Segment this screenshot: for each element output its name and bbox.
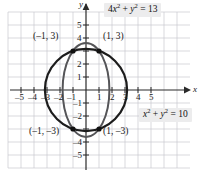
ellipse-equation-annotation: 4x2 + y2 = 13 <box>104 3 161 17</box>
point-neg1-3 <box>70 48 75 53</box>
x-tick-label-3: 3 <box>123 93 128 102</box>
x-tick-label--3: –3 <box>41 93 50 102</box>
y-tick-label--1: –1 <box>73 99 82 108</box>
axes <box>10 4 184 170</box>
x-tick-label-5: 5 <box>149 93 154 102</box>
graph-figure: –5 –4 –3 –2 –1 1 2 3 4 5 5 4 2 1 –1 –2 –… <box>0 0 208 175</box>
x-axis-arrow <box>184 87 191 94</box>
point-1-neg3 <box>96 126 101 131</box>
point-1-3 <box>96 48 101 53</box>
x-tick-label--4: –4 <box>28 93 37 102</box>
x-tick-label-1: 1 <box>97 93 102 102</box>
y-axis-arrow <box>83 3 90 10</box>
ellipse-eq-equals: = <box>138 4 148 14</box>
x-tick-label-4: 4 <box>136 93 141 102</box>
y-axis-label: y <box>79 0 83 9</box>
y-tick-label--4: –4 <box>73 138 82 147</box>
circle-equation-annotation: x2 + y2 = 10 <box>139 108 192 122</box>
y-tick-label-1: 1 <box>77 73 82 82</box>
y-tick-label-5: 5 <box>77 21 82 30</box>
point-label-neg1-3: (–1, 3) <box>33 32 58 42</box>
circle-eq-value: 10 <box>178 109 188 119</box>
ellipse-eq-value: 13 <box>148 4 158 14</box>
circle-eq-equals: = <box>168 109 178 119</box>
x-axis-label: x <box>193 85 197 94</box>
point-neg1-neg3 <box>70 126 75 131</box>
x-tick-label--5: –5 <box>15 93 24 102</box>
point-label-1-neg3: (1, –3) <box>103 127 128 137</box>
coordinate-plane <box>0 0 208 175</box>
x-tick-label--2: –2 <box>54 93 63 102</box>
y-tick-label-2: 2 <box>77 60 82 69</box>
y-tick-label-4: 4 <box>77 34 82 43</box>
circle-eq-plus: + <box>150 109 160 119</box>
y-tick-label--5: –5 <box>73 151 82 160</box>
point-label-neg1-neg3: (–1, –3) <box>29 127 59 137</box>
x-tick-label-2: 2 <box>110 93 115 102</box>
ellipse-eq-plus: + <box>120 4 130 14</box>
y-tick-label--2: –2 <box>73 112 82 121</box>
point-label-1-3: (1, 3) <box>103 32 124 42</box>
